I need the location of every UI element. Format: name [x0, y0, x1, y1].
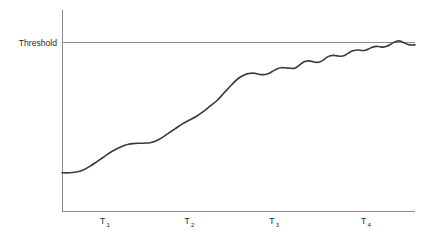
- x-tick-label-group-4: T 4: [361, 216, 372, 228]
- x-tick-subscript-t4: 4: [368, 221, 372, 228]
- line-chart-svg: Threshold T 1 T 2 T 3 T 4: [0, 0, 431, 239]
- threshold-label: Threshold: [19, 38, 57, 48]
- x-tick-label-t2: T: [185, 216, 191, 226]
- x-tick-subscript-t1: 1: [106, 221, 110, 228]
- x-tick-label-t3: T: [269, 216, 275, 226]
- x-tick-label-group-1: T 1: [100, 216, 111, 228]
- growth-curve: [62, 41, 415, 173]
- x-tick-label-t4: T: [361, 216, 367, 226]
- x-tick-label-group-2: T 2: [185, 216, 196, 228]
- x-tick-label-t1: T: [100, 216, 106, 226]
- chart-figure: Threshold T 1 T 2 T 3 T 4: [0, 0, 431, 239]
- x-tick-label-group-3: T 3: [269, 216, 280, 228]
- x-tick-subscript-t2: 2: [191, 221, 195, 228]
- x-tick-subscript-t3: 3: [276, 221, 280, 228]
